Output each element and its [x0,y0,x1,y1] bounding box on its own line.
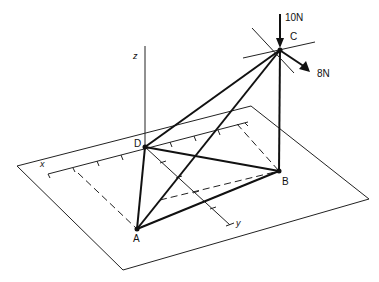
y-axis-label: y [236,219,241,228]
point-b-label: B [282,177,289,187]
point-c-label: C [290,32,297,42]
point-d-label: D [134,139,141,149]
force-8n-arrow [281,51,310,72]
force-8n-label: 8N [317,69,330,79]
force-10n-arrow [276,14,284,48]
x-axis-label: x [40,160,45,169]
y-axis [145,147,234,226]
force-10n-label: 10N [285,13,303,23]
truss-members [137,50,280,229]
ground-plane [17,106,369,270]
point-a-label: A [133,234,140,244]
truss-diagram [0,0,379,282]
z-axis-label: z [133,52,138,61]
